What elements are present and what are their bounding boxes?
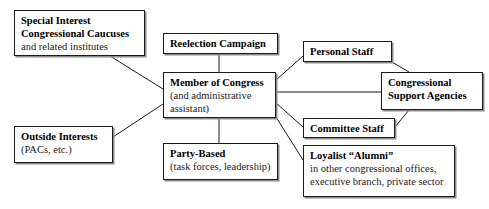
node-loyalist-alumni-subtitle2: executive branch, private sector xyxy=(310,175,448,188)
node-member-of-congress-subtitle2: assistant) xyxy=(170,102,269,115)
node-outside-interests[interactable]: Outside Interests (PACs, etc.) xyxy=(14,126,113,163)
node-special-interest-title2: Congressional Caucuses xyxy=(21,27,138,40)
node-congressional-support-agencies-title: Congressional xyxy=(388,76,476,89)
node-member-of-congress-subtitle: (and administrative xyxy=(170,89,269,102)
node-reelection-campaign[interactable]: Reelection Campaign xyxy=(163,33,278,54)
node-member-of-congress-title: Member of Congress xyxy=(170,76,269,89)
node-party-based-title: Party-Based xyxy=(170,147,271,160)
connector-member-to-personal-staff xyxy=(276,56,303,80)
connector-member-to-loyalist-alumni xyxy=(276,117,303,160)
node-personal-staff-title: Personal Staff xyxy=(310,45,385,58)
node-personal-staff[interactable]: Personal Staff xyxy=(303,41,392,62)
node-outside-interests-subtitle: (PACs, etc.) xyxy=(21,143,106,156)
node-committee-staff-title: Committee Staff xyxy=(310,122,388,135)
node-member-of-congress[interactable]: Member of Congress (and administrative a… xyxy=(163,72,276,118)
node-special-interest-subtitle: and related institutes xyxy=(21,40,138,53)
node-committee-staff[interactable]: Committee Staff xyxy=(303,118,395,138)
node-loyalist-alumni-subtitle: in other congressional offices, xyxy=(310,162,448,175)
node-special-interest[interactable]: Special Interest Congressional Caucuses … xyxy=(14,10,145,56)
connector-outside-interests-to-member xyxy=(113,104,163,137)
node-outside-interests-title: Outside Interests xyxy=(21,130,106,143)
node-party-based[interactable]: Party-Based (task forces, leadership) xyxy=(163,143,278,180)
node-party-based-subtitle: (task forces, leadership) xyxy=(170,160,271,173)
node-reelection-campaign-title: Reelection Campaign xyxy=(170,37,271,50)
connector-member-to-committee-staff xyxy=(276,103,303,127)
connector-committee-staff-to-support-agencies xyxy=(395,110,409,127)
connector-special-interest-to-member xyxy=(110,56,163,89)
connector-personal-staff-to-support-agencies xyxy=(392,62,409,72)
node-congressional-support-agencies-title2: Support Agencies xyxy=(388,89,476,102)
node-loyalist-alumni-title: Loyalist “Alumni” xyxy=(310,149,448,162)
node-special-interest-title: Special Interest xyxy=(21,14,138,27)
node-congressional-support-agencies[interactable]: Congressional Support Agencies xyxy=(381,72,483,110)
node-loyalist-alumni[interactable]: Loyalist “Alumni” in other congressional… xyxy=(303,145,455,197)
diagram-canvas: Special Interest Congressional Caucuses … xyxy=(0,0,489,209)
